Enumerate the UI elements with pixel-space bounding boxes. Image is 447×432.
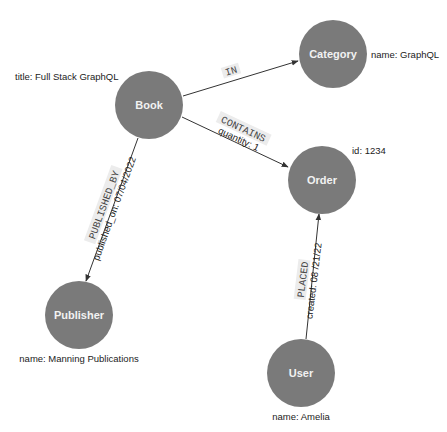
node-prop-book: title: Full Stack GraphQL [15, 71, 118, 82]
node-prop-category: name: GraphQL [371, 49, 439, 60]
graph-canvas: IN CONTAINS quantity: 1 PUBLISHED_BY pub… [0, 0, 447, 432]
edge-contains[interactable]: CONTAINS quantity: 1 [182, 111, 288, 167]
node-category[interactable]: Category [299, 20, 367, 88]
node-prop-publisher: name: Manning Publications [19, 353, 139, 364]
node-label-user: User [289, 367, 314, 379]
edge-placed[interactable]: PLACED created: 08 /21/22 [291, 214, 323, 339]
node-prop-user: name: Amelia [272, 411, 330, 422]
node-order[interactable]: Order [288, 146, 356, 214]
edge-published-by[interactable]: PUBLISHED_BY published_on: 07/04/2022 [79, 138, 138, 281]
node-label-publisher: Publisher [54, 309, 105, 321]
node-label-category: Category [309, 48, 358, 60]
node-prop-order: id: 1234 [352, 145, 386, 156]
node-label-order: Order [307, 174, 338, 186]
node-label-book: Book [135, 99, 163, 111]
node-publisher[interactable]: Publisher [45, 281, 113, 349]
node-user[interactable]: User [267, 339, 335, 407]
edge-in[interactable]: IN [183, 61, 298, 96]
node-book[interactable]: Book [115, 71, 183, 139]
